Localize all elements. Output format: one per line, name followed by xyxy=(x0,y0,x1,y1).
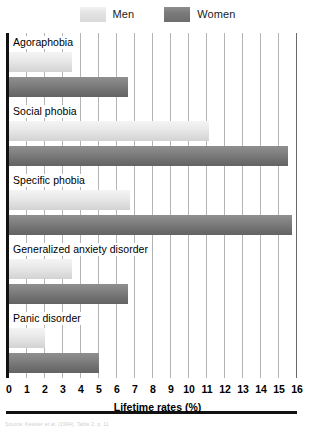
x-tick-1: 1 xyxy=(24,383,30,395)
x-tick-12: 12 xyxy=(219,383,231,395)
category-label: Generalized anxiety disorder xyxy=(12,243,150,256)
bar-group: Generalized anxiety disorder xyxy=(9,240,297,309)
x-tick-9: 9 xyxy=(168,383,174,395)
x-tick-4: 4 xyxy=(78,383,84,395)
bar-women xyxy=(9,353,99,373)
category-label: Social phobia xyxy=(12,105,79,118)
bar-men xyxy=(9,328,45,348)
bar-groups: AgoraphobiaSocial phobiaSpecific phobiaG… xyxy=(9,33,297,378)
legend-swatch-men-icon xyxy=(80,7,106,22)
legend-label-men: Men xyxy=(113,8,135,20)
x-tick-6: 6 xyxy=(114,383,120,395)
bar-group: Social phobia xyxy=(9,102,297,171)
x-tick-7: 7 xyxy=(132,383,138,395)
source-note: Source: Kessler et al. (1994), Table 2, … xyxy=(5,421,109,427)
chart-legend: Men Women xyxy=(0,2,315,26)
bar-group: Specific phobia xyxy=(9,171,297,240)
bar-men xyxy=(9,121,209,141)
legend-entry-men: Men xyxy=(80,7,135,22)
category-label: Agoraphobia xyxy=(12,36,75,49)
bar-women xyxy=(9,146,288,166)
x-tick-15: 15 xyxy=(273,383,285,395)
anxiety-disorders-bar-chart: Men Women AgoraphobiaSocial phobiaSpecif… xyxy=(0,0,315,432)
bar-women xyxy=(9,77,128,97)
x-tick-5: 5 xyxy=(96,383,102,395)
legend-label-women: Women xyxy=(197,8,235,20)
x-axis-title: Lifetime rates (%) xyxy=(0,401,315,413)
bar-group: Panic disorder xyxy=(9,309,297,378)
legend-entry-women: Women xyxy=(164,7,235,22)
legend-swatch-women-icon xyxy=(164,7,190,22)
x-tick-16: 16 xyxy=(291,383,303,395)
category-label: Panic disorder xyxy=(12,312,83,325)
x-tick-13: 13 xyxy=(237,383,249,395)
x-tick-11: 11 xyxy=(201,383,212,395)
bar-men xyxy=(9,52,72,72)
bar-women xyxy=(9,284,128,304)
x-tick-14: 14 xyxy=(255,383,267,395)
bar-women xyxy=(9,215,292,235)
bar-men xyxy=(9,190,130,210)
plot-area: AgoraphobiaSocial phobiaSpecific phobiaG… xyxy=(9,33,297,378)
x-tick-2: 2 xyxy=(42,383,48,395)
bar-men xyxy=(9,259,72,279)
bar-group: Agoraphobia xyxy=(9,33,297,102)
x-tick-3: 3 xyxy=(60,383,66,395)
x-tick-0: 0 xyxy=(6,383,12,395)
category-label: Specific phobia xyxy=(12,174,87,187)
x-axis-tick-labels: 012345678910111213141516 xyxy=(9,383,297,399)
x-tick-8: 8 xyxy=(150,383,156,395)
x-tick-10: 10 xyxy=(183,383,195,395)
